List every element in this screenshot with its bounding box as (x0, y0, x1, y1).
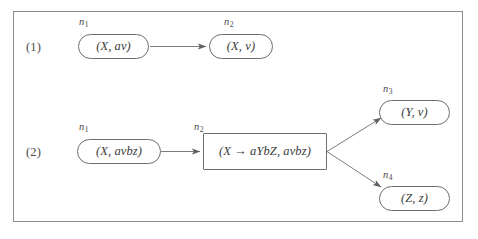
node-text: (X, av) (96, 39, 131, 54)
row-marker-2: (2) (26, 145, 41, 160)
node-r2-n1[interactable]: (X, avbz) (77, 139, 161, 164)
node-label-subscript: 1 (84, 125, 88, 134)
node-r1-n1[interactable]: (X, av) (78, 34, 149, 59)
node-label-subscript: 4 (388, 173, 392, 182)
node-r2-n2[interactable]: (X → aYbZ, avbz) (203, 133, 327, 170)
node-text: (X, v) (227, 39, 255, 54)
node-label-r2-n1: n1 (79, 121, 88, 134)
node-label-subscript: 3 (388, 87, 392, 96)
node-label-r2-n3: n3 (383, 83, 392, 96)
node-r2-n4[interactable]: (Z, z) (379, 186, 450, 211)
node-label-subscript: 2 (229, 20, 233, 29)
node-text: (X → aYbZ, avbz) (219, 144, 311, 159)
node-text: (X, avbz) (96, 144, 142, 159)
node-label-r1-n2: n2 (224, 16, 233, 29)
node-text: (Y, v) (401, 105, 428, 120)
node-label-subscript: 1 (84, 20, 88, 29)
node-r1-n2[interactable]: (X, v) (209, 34, 273, 59)
row-marker-1: (1) (26, 40, 41, 55)
node-text: (Z, z) (401, 191, 428, 206)
node-label-r2-n4: n4 (383, 169, 392, 182)
node-label-r1-n1: n1 (79, 16, 88, 29)
node-r2-n3[interactable]: (Y, v) (379, 100, 450, 125)
node-label-r2-n2: n2 (194, 121, 203, 134)
